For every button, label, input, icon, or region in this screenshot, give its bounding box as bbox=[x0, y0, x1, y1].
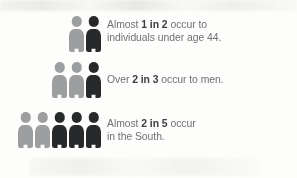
person-figure-highlighted bbox=[86, 16, 101, 52]
person-body-icon bbox=[86, 125, 101, 149]
person-figure-highlighted bbox=[86, 62, 101, 98]
person-head-icon bbox=[54, 62, 65, 73]
stat-fraction-gender: 2 in 3 bbox=[132, 74, 158, 85]
person-figure bbox=[18, 112, 33, 148]
stat-label-line: Almost 2 in 5 occur bbox=[107, 118, 196, 131]
stat-label-gender: Over 2 in 3 occur to men. bbox=[107, 74, 224, 87]
person-figure bbox=[52, 62, 67, 98]
person-head-icon bbox=[88, 62, 99, 73]
stat-label-line: individuals under age 44. bbox=[107, 32, 221, 45]
person-head-icon bbox=[37, 112, 48, 123]
person-head-icon bbox=[71, 62, 82, 73]
person-body-icon bbox=[69, 29, 84, 53]
person-figure-highlighted bbox=[86, 112, 101, 148]
person-body-icon bbox=[18, 125, 33, 149]
stat-label-line: in the South. bbox=[107, 131, 196, 144]
stat-fraction-region: 2 in 5 bbox=[141, 118, 167, 129]
person-head-icon bbox=[88, 16, 99, 27]
person-head-icon bbox=[71, 112, 82, 123]
person-body-icon bbox=[86, 29, 101, 53]
person-body-icon bbox=[86, 75, 101, 99]
stat-label-age: Almost 1 in 2 occur to individuals under… bbox=[107, 19, 221, 44]
pictogram-group-age bbox=[69, 16, 101, 52]
stat-label-region: Almost 2 in 5 occur in the South. bbox=[107, 118, 196, 143]
person-figure bbox=[69, 62, 84, 98]
person-head-icon bbox=[71, 16, 82, 27]
person-figure-highlighted bbox=[52, 112, 67, 148]
person-figure-highlighted bbox=[69, 112, 84, 148]
person-body-icon bbox=[52, 75, 67, 99]
person-head-icon bbox=[88, 112, 99, 123]
person-figure bbox=[69, 16, 84, 52]
pictogram-infographic: Almost 1 in 2 occur to individuals under… bbox=[0, 0, 297, 178]
stat-label-line: Over 2 in 3 occur to men. bbox=[107, 74, 224, 87]
person-body-icon bbox=[52, 125, 67, 149]
stat-label-line: Almost 1 in 2 occur to bbox=[107, 19, 221, 32]
pictogram-group-gender bbox=[52, 62, 101, 98]
person-head-icon bbox=[20, 112, 31, 123]
pictogram-group-region bbox=[18, 112, 101, 148]
person-body-icon bbox=[69, 75, 84, 99]
person-head-icon bbox=[54, 112, 65, 123]
stat-fraction-age: 1 in 2 bbox=[141, 19, 167, 30]
person-body-icon bbox=[69, 125, 84, 149]
person-figure bbox=[35, 112, 50, 148]
person-body-icon bbox=[35, 125, 50, 149]
